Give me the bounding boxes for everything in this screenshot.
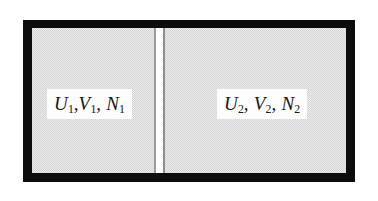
chamber-right-particle-number-symbol: N bbox=[281, 93, 294, 114]
chamber-right-label: U2,V2,N2 bbox=[217, 89, 307, 119]
container-interior: U1,V1,N1 U2,V2,N2 bbox=[32, 28, 346, 173]
chamber-left-volume-symbol: V bbox=[79, 93, 91, 114]
chamber-left: U1,V1,N1 bbox=[32, 28, 154, 173]
chamber-left-particle-number-subscript: 1 bbox=[119, 103, 125, 116]
chamber-right-particle-number-subscript: 2 bbox=[294, 103, 300, 116]
chamber-right-internal-energy-subscript: 2 bbox=[238, 103, 244, 116]
chamber-left-particle-number-symbol: N bbox=[106, 93, 119, 114]
chamber-right-volume-subscript: 2 bbox=[266, 103, 272, 116]
container-outer-wall: U1,V1,N1 U2,V2,N2 bbox=[23, 20, 355, 182]
comma-separator: , bbox=[271, 93, 276, 114]
chamber-right-internal-energy-symbol: U bbox=[224, 93, 238, 114]
chamber-left-internal-energy-subscript: 1 bbox=[68, 103, 74, 116]
chamber-right: U2,V2,N2 bbox=[165, 28, 346, 173]
comma-separator: , bbox=[244, 93, 249, 114]
chamber-left-label: U1,V1,N1 bbox=[47, 89, 132, 119]
chamber-left-volume-subscript: 1 bbox=[90, 103, 96, 116]
comma-separator: , bbox=[96, 93, 101, 114]
chamber-right-volume-symbol: V bbox=[254, 93, 266, 114]
chamber-left-internal-energy-symbol: U bbox=[54, 93, 68, 114]
partition-wall bbox=[154, 28, 165, 173]
partition-edge-left bbox=[154, 28, 156, 173]
